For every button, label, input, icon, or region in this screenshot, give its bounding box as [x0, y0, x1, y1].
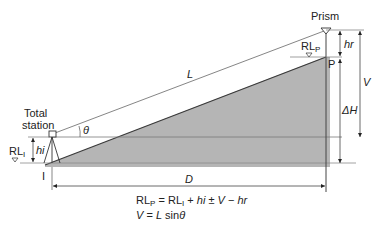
point-i-label: I [42, 170, 45, 182]
total-station-label-line2: station [22, 119, 54, 131]
hi-label: hi [36, 144, 45, 156]
total-station-icon [49, 131, 56, 137]
rl-i-label: RLI [9, 145, 25, 161]
point-p-label: P [328, 58, 335, 70]
total-station-label-line1: Total [24, 107, 47, 119]
theta-label: θ [83, 124, 89, 136]
tripod-icon [44, 137, 60, 163]
formula-v: V = L sinθ [136, 208, 185, 223]
theta-arc [79, 126, 80, 137]
delta-h-label: ΔH [342, 104, 357, 116]
v-label: V [363, 76, 370, 88]
prism-label: Prism [311, 10, 339, 22]
hr-label: hr [344, 38, 354, 50]
slope-distance-label: L [187, 68, 193, 80]
horizontal-distance-label: D [185, 173, 193, 185]
rl-p-label: RLP [301, 40, 320, 56]
prism-icon [321, 28, 331, 34]
